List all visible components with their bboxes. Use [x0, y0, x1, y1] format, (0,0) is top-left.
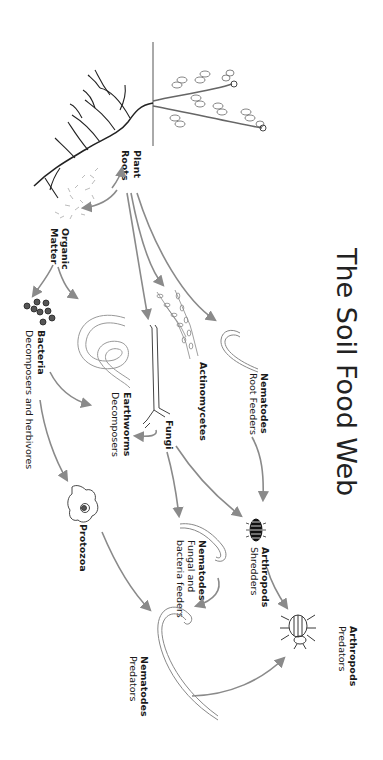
organic-matter-icon: [55, 168, 98, 219]
svg-text:Decomposers: Decomposers: [110, 392, 121, 457]
svg-text:Protozoa: Protozoa: [78, 524, 89, 572]
arthropod-predator-icon: [280, 615, 316, 649]
svg-text:bacteria feeders: bacteria feeders: [175, 540, 186, 618]
nematodes-root-feeders-label: Nematodes Root Feeders: [248, 373, 270, 435]
svg-text:Earthworms: Earthworms: [122, 392, 133, 457]
arrow-roots-to-fungi: [127, 193, 148, 318]
arthropods-predators-label: Arthropods Predators: [337, 626, 359, 687]
arrow-fungi-to-arthropods-shredders: [176, 446, 241, 516]
fungi-icon: [143, 325, 170, 428]
arrow-nematodes-predators-to-arthropods-predators: [192, 658, 284, 696]
arrow-fungi-to-nematodes-fungal: [167, 452, 179, 516]
svg-text:Roots: Roots: [120, 150, 131, 181]
svg-text:Predators: Predators: [128, 656, 139, 701]
nematode-predator-icon: [158, 607, 218, 720]
arthropods-shredders-label: Arthropods Shredders: [249, 547, 271, 608]
arrow-bacteria-to-earthworms: [50, 372, 90, 405]
svg-text:Nematodes: Nematodes: [259, 373, 270, 434]
actinomycetes-label: Actinomycetes: [198, 362, 209, 441]
diagram-title: The Soil Food Web: [331, 247, 362, 496]
bacteria-label: Bacteria Decomposers and herbivores: [24, 330, 47, 469]
svg-text:Matter: Matter: [49, 228, 60, 264]
arrow-nematodes-root-to-arthropods-shredders: [252, 437, 263, 500]
nematode-root-feeder-icon: [221, 330, 258, 372]
svg-text:Root Feeders: Root Feeders: [248, 373, 259, 435]
arrow-organic-to-bacteria: [33, 265, 53, 296]
earthworms-label: Earthworms Decomposers: [110, 392, 133, 457]
svg-text:Fungi: Fungi: [164, 420, 175, 450]
plant-roots-label: Plant Roots: [120, 150, 143, 181]
arrow-bacteria-to-protozoa: [40, 400, 67, 480]
protozoa-label: Protozoa: [78, 524, 89, 572]
actinomycetes-icon: [157, 290, 198, 359]
nematodes-fungal-feeders-label: Nematodes Fungal and bacteria feeders: [175, 540, 208, 618]
plant-shoot-icon: [153, 70, 266, 131]
svg-text:Organic: Organic: [60, 228, 71, 270]
arthropod-shredder-icon: [246, 519, 266, 541]
svg-text:Actinomycetes: Actinomycetes: [198, 362, 209, 441]
arrow-fungi-to-earthworms: [135, 430, 156, 436]
svg-text:Plant: Plant: [132, 150, 143, 178]
nematodes-predators-label: Nematodes Predators: [128, 656, 150, 717]
arrow-protozoa-to-nematodes-predators: [102, 532, 150, 610]
svg-text:Nematodes: Nematodes: [139, 656, 150, 717]
svg-text:Fungal and: Fungal and: [186, 540, 197, 592]
fungi-label: Fungi: [164, 420, 175, 450]
organic-matter-label: Organic Matter: [49, 228, 71, 270]
earthworm-icon: [78, 315, 130, 388]
arrow-roots-to-actinomycetes: [131, 193, 163, 285]
protozoa-icon: [68, 486, 98, 523]
bacteria-icon: [24, 299, 55, 325]
svg-text:Predators: Predators: [337, 626, 348, 671]
plant-roots-icon: [34, 70, 153, 198]
svg-text:Bacteria: Bacteria: [36, 330, 47, 375]
soil-food-web-diagram: The Soil Food Web: [0, 0, 383, 760]
arrow-roots-to-nematodes-root: [137, 193, 215, 320]
arrow-organic-to-earthworms: [58, 267, 77, 298]
svg-text:Nematodes: Nematodes: [197, 540, 208, 601]
svg-text:Decomposers and herbivores: Decomposers and herbivores: [24, 330, 35, 469]
svg-text:Shredders: Shredders: [249, 547, 260, 595]
svg-text:Arthropods: Arthropods: [348, 626, 359, 687]
